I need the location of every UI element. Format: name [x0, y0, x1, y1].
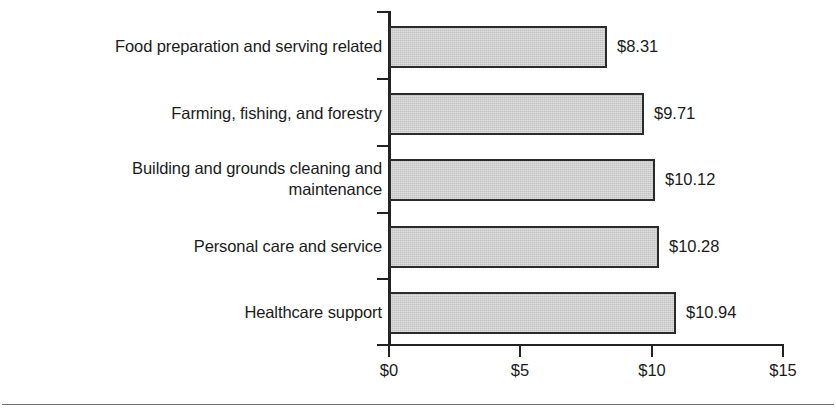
y-axis-tick [377, 212, 389, 214]
bar-value-label: $10.12 [665, 169, 715, 190]
bar-row: Food preparation and serving related $8.… [0, 26, 836, 68]
bar-rect [389, 159, 655, 201]
x-axis-line [388, 344, 784, 346]
y-axis-tick [377, 278, 389, 280]
x-axis-tick [651, 346, 653, 357]
bar-rect [389, 226, 659, 268]
x-axis-tick-label: $0 [359, 360, 419, 380]
bar-category-label: Building and grounds cleaning and mainte… [22, 158, 382, 200]
bar-value-label: $10.28 [669, 236, 719, 257]
bar-category-label: Farming, fishing, and forestry [22, 103, 382, 124]
bar-row: Building and grounds cleaning and mainte… [0, 159, 836, 201]
x-axis-tick-label: $5 [490, 360, 550, 380]
y-axis-tick [377, 78, 389, 80]
x-axis-tick [782, 346, 784, 357]
bar-category-label: Food preparation and serving related [22, 36, 382, 57]
x-axis-tick [519, 346, 521, 357]
bar-rect [389, 292, 676, 334]
footer-divider [2, 404, 834, 405]
bar-value-label: $8.31 [617, 36, 658, 57]
bar-row: Farming, fishing, and forestry $9.71 [0, 93, 836, 135]
x-axis-tick-label: $15 [753, 360, 813, 380]
bar-value-label: $9.71 [654, 103, 695, 124]
bar-row: Healthcare support $10.94 [0, 292, 836, 334]
bar-value-label: $10.94 [686, 302, 736, 323]
x-axis-tick [388, 346, 390, 357]
bar-category-label: Healthcare support [22, 302, 382, 323]
bar-category-label: Personal care and service [22, 236, 382, 257]
bar-row: Personal care and service $10.28 [0, 226, 836, 268]
bar-rect [389, 93, 644, 135]
bar-rect [389, 26, 607, 68]
y-axis-tick [377, 11, 389, 13]
x-axis-tick-label: $10 [622, 360, 682, 380]
y-axis-tick [377, 145, 389, 147]
bar-chart-figure: Food preparation and serving related $8.… [0, 0, 836, 415]
